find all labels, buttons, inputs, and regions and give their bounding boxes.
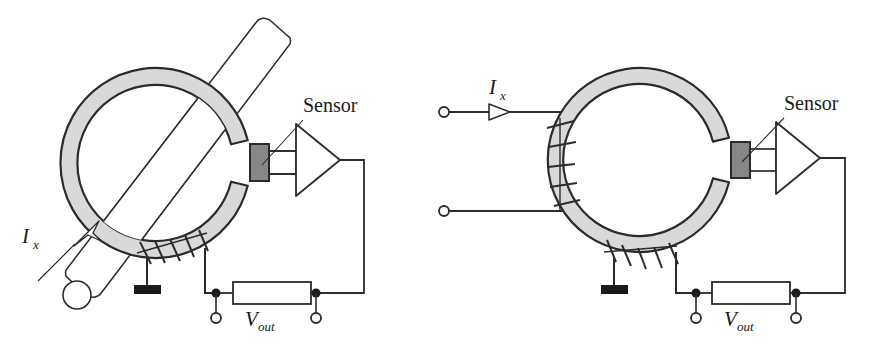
sensor-leads-left: [269, 151, 296, 174]
winding-to-vout-wire-right: [676, 252, 696, 293]
figure-root: Sensor I x V out: [0, 0, 876, 349]
sensor-label: Sensor: [303, 94, 358, 116]
panel-left: Sensor I x V out: [21, 18, 364, 334]
sensor-label: Sensor: [784, 92, 839, 114]
amplifier-output-wire-left: [316, 160, 364, 293]
vout-sublabel: out: [258, 319, 275, 334]
sensor-element[interactable]: [731, 142, 750, 178]
panel-right: I x: [439, 68, 845, 334]
ground-icon: [601, 285, 628, 294]
output-terminal-left[interactable]: [691, 313, 701, 323]
vout-sublabel: out: [737, 319, 754, 334]
ground-connection-left: [134, 258, 161, 294]
amplifier-symbol: [296, 124, 340, 196]
amplifier-output-wire-right: [796, 158, 845, 293]
current-sublabel-right: x: [499, 88, 506, 103]
ground-connection-right: [601, 258, 628, 294]
magnetic-core-ring-right: [548, 68, 729, 252]
output-terminal-right[interactable]: [791, 313, 801, 323]
amplifier-symbol: [776, 122, 820, 194]
current-sublabel-left: x: [32, 237, 39, 252]
vout-box: [233, 282, 311, 304]
vout-box: [712, 282, 790, 304]
current-label-right: I: [488, 75, 497, 99]
core-body: [548, 68, 729, 252]
input-terminal-top[interactable]: [439, 107, 449, 117]
output-terminal-left[interactable]: [211, 313, 221, 323]
sensor-element[interactable]: [250, 144, 269, 181]
current-label-left: I: [21, 224, 30, 248]
winding-to-vout-wire-left: [205, 248, 216, 293]
current-sensor-figure: Sensor I x V out: [0, 0, 876, 349]
current-arrow-right: [489, 104, 510, 120]
sensor-leads-right: [750, 149, 776, 171]
ground-icon: [134, 285, 161, 294]
conductor-end-circle: [63, 281, 91, 309]
output-terminal-right[interactable]: [311, 313, 321, 323]
input-terminal-bottom[interactable]: [439, 206, 449, 216]
